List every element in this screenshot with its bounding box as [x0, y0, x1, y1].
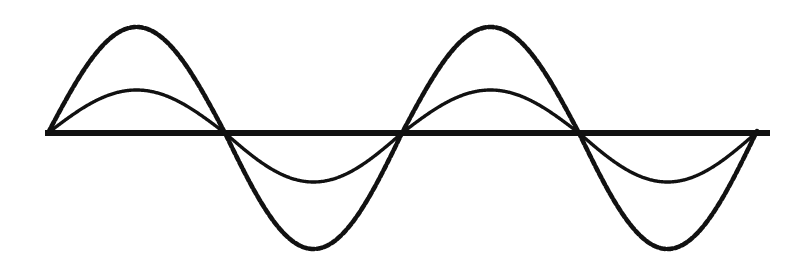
waveform-figure	[0, 0, 802, 275]
waveform-canvas	[0, 0, 802, 275]
